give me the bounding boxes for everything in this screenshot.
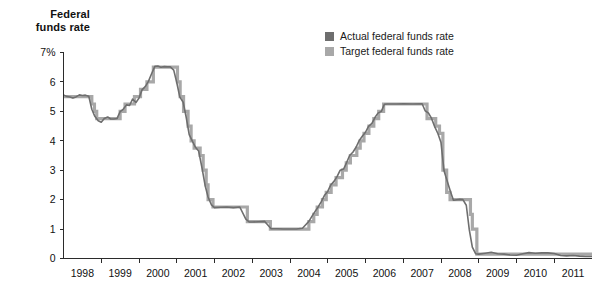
x-tick-label: 2009 [486,267,510,279]
y-tick-label: 6 [50,76,56,88]
y-tick-label: 2 [50,193,56,205]
x-tick-label: 2006 [373,267,397,279]
x-tick-label: 2005 [335,267,359,279]
x-tick-label: 2002 [222,267,246,279]
x-tick-label: 2011 [562,267,585,279]
x-tick-label: 2007 [410,267,434,279]
y-axis-ticks: 7%6543210 [40,46,63,264]
data-series-group [64,66,593,256]
y-tick-label: 5 [50,105,56,117]
x-tick-label: 2001 [184,267,208,279]
series-line-actual [64,66,593,256]
chart-container: Federal funds rate Actual federal funds … [0,0,602,290]
x-tick-label: 2003 [259,267,283,279]
plot-area: 7%6543210 199819992000200120022003200420… [0,0,602,290]
chart-svg: 7%6543210 199819992000200120022003200420… [0,0,602,290]
y-tick-label: 0 [50,252,56,264]
y-tick-label: 3 [50,164,56,176]
x-tick-label: 1998 [71,267,95,279]
x-tick-label: 2008 [448,267,472,279]
x-tick-label: 2010 [524,267,548,279]
y-tick-label: 7% [40,46,55,58]
x-axis-ticks: 1998199920002001200220032004200520062007… [71,259,585,279]
y-tick-label: 4 [50,135,56,147]
x-tick-label: 1999 [108,267,132,279]
series-line-target [64,67,593,254]
x-tick-label: 2004 [297,267,321,279]
y-tick-label: 1 [50,223,56,235]
x-tick-label: 2000 [146,267,170,279]
